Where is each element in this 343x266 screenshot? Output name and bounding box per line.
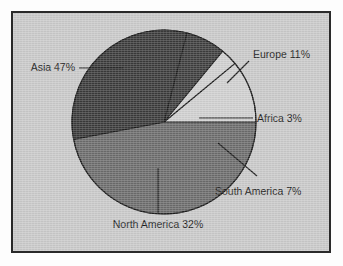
pie-slice-asia[interactable] [74, 122, 256, 214]
chart-plate: Asia 47% Europe 11% Africa 3% South Amer… [11, 11, 331, 253]
label-north-america: North America 32% [113, 218, 203, 230]
label-africa: Africa 3% [257, 112, 302, 124]
label-europe: Europe 11% [253, 48, 310, 60]
label-asia: Asia 47% [31, 61, 75, 73]
label-south-america: South America 7% [215, 185, 301, 197]
pie-chart: Asia 47% Europe 11% Africa 3% South Amer… [13, 13, 331, 253]
figure-canvas: Asia 47% Europe 11% Africa 3% South Amer… [0, 0, 343, 266]
